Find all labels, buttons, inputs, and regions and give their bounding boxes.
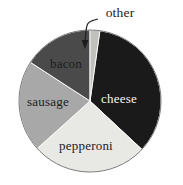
pepperoni-slice-label: pepperoni — [59, 138, 113, 153]
other-slice-label: other — [106, 5, 135, 20]
pie-chart-container: cheesepepperonisausagebacon other — [0, 0, 183, 185]
cheese-slice-label: cheese — [101, 91, 137, 106]
sausage-slice-label: sausage — [27, 94, 69, 109]
pie-chart: cheesepepperonisausagebacon other — [0, 0, 183, 185]
bacon-slice-label: bacon — [50, 56, 82, 71]
